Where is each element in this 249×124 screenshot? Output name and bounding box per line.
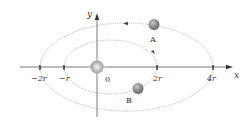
satellite-b-label: B [126,96,132,105]
tick-label-2r: 2r [152,74,163,83]
x-axis-label: x [234,70,239,80]
satellite-a-label: A [149,35,156,44]
y-axis-label: y [86,9,93,19]
origin-label: 0 [105,75,110,84]
inner-orbit-arrow-icon [151,50,155,54]
y-axis-arrow-icon [95,13,99,20]
tick-label-neg-r: −r [59,74,71,83]
orbit-diagram: y x 0 −2r −r 2r 4r A B [0,0,249,124]
outer-orbit-arrow-icon [123,22,128,25]
tick-label-neg-2r: −2r [31,74,48,83]
satellite-a-icon [149,19,160,30]
tick-label-4r: 4r [206,74,217,83]
satellite-b-icon [133,83,144,94]
x-axis-arrow-icon [226,65,233,69]
central-star-icon [91,61,104,74]
